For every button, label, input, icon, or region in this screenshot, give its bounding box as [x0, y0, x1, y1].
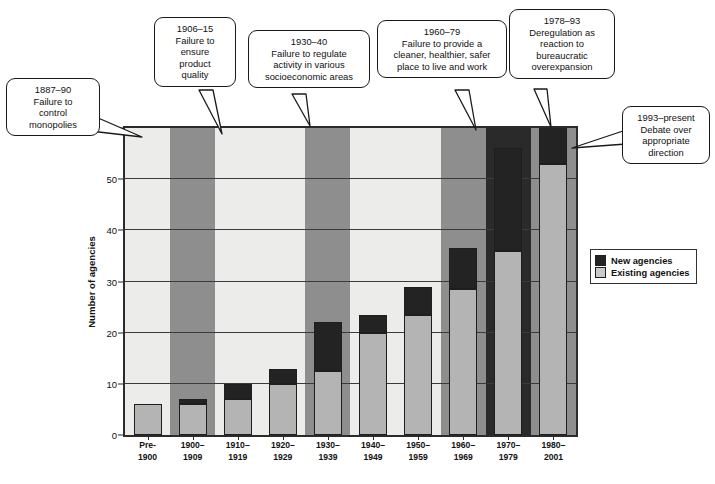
- era-shade-band: [170, 128, 215, 435]
- x-axis-tick-label: 1910–1919: [215, 440, 260, 463]
- callout-line: 1930–40: [255, 36, 363, 48]
- callout-line: Failure to: [161, 35, 229, 47]
- callout-line: product: [161, 58, 229, 70]
- bar-segment-new: [269, 369, 297, 384]
- callout-1960-79: 1960–79 Failure to provide a cleaner, he…: [377, 20, 507, 78]
- legend-item-existing-agencies: Existing agencies: [595, 267, 690, 278]
- callout-line: Failure to provide a: [384, 38, 500, 50]
- bar-segment-existing: [404, 315, 432, 435]
- bar-segment-new: [179, 399, 207, 404]
- bar-segment-new: [449, 248, 477, 289]
- legend-label: New agencies: [611, 256, 673, 266]
- callout-1993-present: 1993–present Debate over appropriate dir…: [622, 106, 710, 164]
- legend-swatch-new-agencies: [595, 255, 606, 266]
- bar-segment-existing: [494, 251, 522, 435]
- bar-1930-1939: [314, 322, 342, 435]
- callout-1887-90: 1887–90 Failure to control monopolies: [6, 78, 100, 136]
- callout-line: Failure to: [13, 96, 93, 108]
- y-axis-tick-mark: [118, 383, 123, 384]
- callout-line: control: [13, 107, 93, 119]
- legend-item-new-agencies: New agencies: [595, 255, 690, 266]
- bar-segment-new: [539, 128, 567, 164]
- x-axis-tick-label: Pre-1900: [125, 440, 170, 463]
- x-axis-tick-mark: [463, 435, 464, 440]
- chart-plot-inner: [125, 128, 576, 435]
- callout-line: monopolies: [13, 119, 93, 131]
- callout-line: 1906–15: [161, 23, 229, 35]
- x-axis-tick-mark: [553, 435, 554, 440]
- bar-segment-new: [314, 322, 342, 371]
- bar-1960-1969: [449, 248, 477, 435]
- bar-segment-new: [404, 287, 432, 315]
- callout-line: ensure: [161, 46, 229, 58]
- bar-segment-existing: [224, 399, 252, 435]
- x-axis-tick-label: 1900–1909: [170, 440, 215, 463]
- x-axis-tick-mark: [148, 435, 149, 440]
- callout-line: 1887–90: [13, 84, 93, 96]
- callout-line: 1960–79: [384, 26, 500, 38]
- x-axis-tick-label: 1950–1959: [396, 440, 441, 463]
- callout-line: direction: [629, 147, 703, 159]
- x-axis: Pre-19001900–19091910–19191920–19291930–…: [123, 440, 578, 480]
- bar-segment-existing: [269, 384, 297, 435]
- callout-line: activity in various: [255, 59, 363, 71]
- x-axis-tick-mark: [238, 435, 239, 440]
- y-axis: 0102030405060: [97, 126, 123, 437]
- y-axis-tick-label: 20: [106, 327, 117, 338]
- x-axis-tick-label: 1940–1949: [351, 440, 396, 463]
- y-axis-tick-mark: [118, 435, 123, 436]
- y-axis-tick-label: 10: [106, 378, 117, 389]
- legend-label: Existing agencies: [611, 268, 690, 278]
- bar-1950-1959: [404, 287, 432, 435]
- bar-segment-new: [224, 384, 252, 399]
- bar-segment-existing: [314, 371, 342, 435]
- callout-line: overexpansion: [516, 61, 608, 73]
- x-axis-tick-mark: [508, 435, 509, 440]
- callout-line: bureaucratic: [516, 50, 608, 62]
- x-axis-tick-mark: [328, 435, 329, 440]
- x-axis-tick-label: 1920–1929: [260, 440, 305, 463]
- bar-1970-1979: [494, 148, 522, 435]
- y-axis-tick-mark: [118, 332, 123, 333]
- y-axis-tick-label: 40: [106, 225, 117, 236]
- callout-line: place to live and work: [384, 61, 500, 73]
- bar-1910-1919: [224, 384, 252, 435]
- callout-line: Failure to regulate: [255, 48, 363, 60]
- callout-line: quality: [161, 69, 229, 81]
- callout-line: cleaner, healthier, safer: [384, 49, 500, 61]
- bar-segment-existing: [359, 333, 387, 435]
- chart-plot-area: [123, 126, 578, 437]
- callout-pointer-1930-40: [288, 92, 328, 132]
- callout-line: Deregulation as: [516, 27, 608, 39]
- callout-pointer-1906-15: [195, 88, 235, 140]
- bar-1940-1949: [359, 315, 387, 435]
- x-axis-tick-mark: [283, 435, 284, 440]
- x-axis-tick-label: 1930–1939: [305, 440, 350, 463]
- legend-swatch-existing-agencies: [595, 267, 606, 278]
- y-axis-tick-label: 0: [112, 430, 117, 441]
- callout-1978-93: 1978–93 Deregulation as reaction to bure…: [509, 9, 615, 79]
- x-axis-tick-label: 1980–2001: [531, 440, 576, 463]
- x-axis-tick-mark: [193, 435, 194, 440]
- callout-1906-15: 1906–15 Failure to ensure product qualit…: [154, 17, 236, 87]
- callout-line: Debate over: [629, 124, 703, 136]
- y-axis-tick-label: 30: [106, 276, 117, 287]
- callout-line: appropriate: [629, 135, 703, 147]
- bar-segment-existing: [539, 164, 567, 435]
- bar-segment-existing: [449, 289, 477, 435]
- chart-legend: New agencies Existing agencies: [590, 249, 697, 284]
- bar-segment-new: [359, 315, 387, 333]
- bar-segment-new: [494, 148, 522, 250]
- y-axis-title-label: Number of agencies: [86, 236, 97, 328]
- callout-line: reaction to: [516, 38, 608, 50]
- callout-line: 1978–93: [516, 15, 608, 27]
- callout-line: socioeconomic areas: [255, 71, 363, 83]
- bar-1980-2001: [539, 128, 567, 435]
- x-axis-tick-mark: [373, 435, 374, 440]
- y-axis-tick-label: 50: [106, 174, 117, 185]
- callout-pointer-1978-93: [530, 87, 570, 133]
- callout-pointer-1960-79: [452, 88, 492, 136]
- bar-Pre-1900: [134, 404, 162, 435]
- bar-segment-existing: [179, 404, 207, 435]
- x-axis-tick-label: 1970–1979: [486, 440, 531, 463]
